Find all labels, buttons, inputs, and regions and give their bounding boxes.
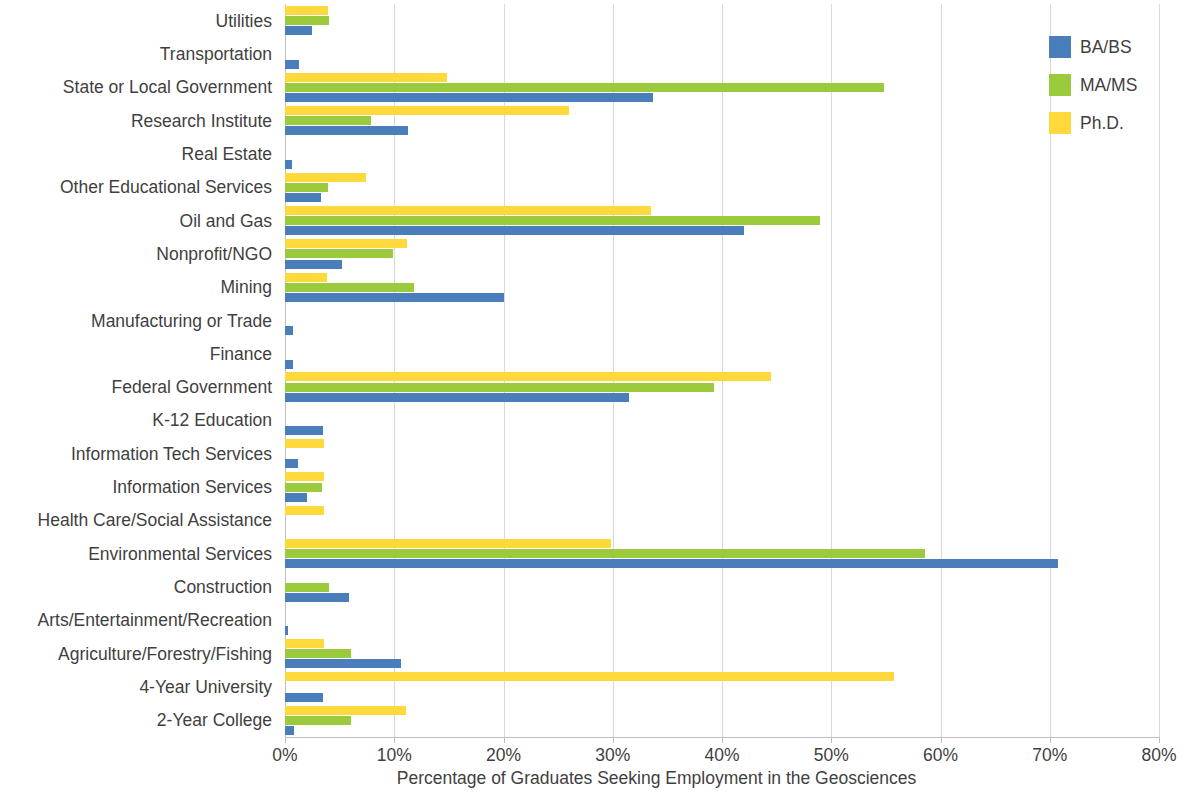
bar-track [285, 339, 1159, 348]
bar-group [285, 504, 1159, 537]
bar-group [285, 637, 1159, 670]
category-label: Mining [0, 277, 279, 297]
bar-track [285, 316, 1159, 325]
bar-track [285, 526, 1159, 535]
bar-ph-d- [285, 639, 324, 648]
legend: BA/BSMA/MSPh.D. [1049, 28, 1179, 142]
bar-ba-bs [285, 193, 321, 202]
legend-item: BA/BS [1049, 28, 1179, 66]
x-tick-mark [1050, 737, 1051, 743]
bar-ba-bs [285, 226, 744, 235]
x-tick-label: 10% [377, 745, 412, 765]
bar-ba-bs [285, 559, 1058, 568]
category-label: Research Institute [0, 111, 279, 131]
category-label: Real Estate [0, 144, 279, 164]
bar-ph-d- [285, 706, 406, 715]
bar-group [285, 237, 1159, 270]
bar-group [285, 337, 1159, 370]
legend-label: BA/BS [1080, 37, 1132, 58]
bar-ma-ms [285, 383, 714, 392]
bar-track [285, 16, 1159, 25]
bar-group [285, 4, 1159, 37]
legend-label: Ph.D. [1080, 113, 1124, 134]
bar-track [285, 73, 1159, 82]
category-label: Oil and Gas [0, 211, 279, 231]
bar-ph-d- [285, 239, 407, 248]
bar-track [285, 506, 1159, 515]
bar-ba-bs [285, 426, 323, 435]
bar-ba-bs [285, 93, 653, 102]
bar-ba-bs [285, 293, 504, 302]
bar-track [285, 639, 1159, 648]
legend-item: Ph.D. [1049, 104, 1179, 142]
bar-ph-d- [285, 173, 366, 182]
bar-ba-bs [285, 26, 312, 35]
bar-ba-bs [285, 459, 298, 468]
bar-ma-ms [285, 116, 371, 125]
category-label: 2-Year College [0, 710, 279, 730]
bar-track [285, 149, 1159, 158]
bar-group [285, 37, 1159, 70]
legend-swatch-icon [1049, 74, 1071, 96]
bar-ma-ms [285, 483, 322, 492]
bar-track [285, 716, 1159, 725]
bar-track [285, 260, 1159, 269]
bar-track [285, 549, 1159, 558]
bar-track [285, 672, 1159, 681]
bar-track [285, 116, 1159, 125]
bar-ba-bs [285, 593, 349, 602]
plot-area [285, 4, 1159, 737]
bar-track [285, 559, 1159, 568]
bar-track [285, 216, 1159, 225]
x-tick-mark [1159, 737, 1160, 743]
bar-track [285, 6, 1159, 15]
category-label: Utilities [0, 11, 279, 31]
legend-swatch-icon [1049, 36, 1071, 58]
bar-track [285, 706, 1159, 715]
x-tick-label: 50% [814, 745, 849, 765]
bar-track [285, 283, 1159, 292]
bar-track [285, 60, 1159, 69]
x-tick-label: 40% [704, 745, 739, 765]
bar-track [285, 416, 1159, 425]
x-tick-label: 20% [486, 745, 521, 765]
bar-track [285, 426, 1159, 435]
bar-track [285, 459, 1159, 468]
bar-ph-d- [285, 472, 324, 481]
x-tick-label: 30% [595, 745, 630, 765]
bar-track [285, 472, 1159, 481]
bar-ph-d- [285, 439, 324, 448]
bar-rows [285, 4, 1159, 737]
bar-track [285, 226, 1159, 235]
bar-group [285, 470, 1159, 503]
bar-ma-ms [285, 16, 329, 25]
bar-track [285, 649, 1159, 658]
bar-track [285, 393, 1159, 402]
bar-group [285, 271, 1159, 304]
bar-ph-d- [285, 273, 327, 282]
bar-track [285, 659, 1159, 668]
bar-ma-ms [285, 283, 414, 292]
category-label: Arts/Entertainment/Recreation [0, 610, 279, 630]
bar-ma-ms [285, 583, 329, 592]
category-label: Information Services [0, 477, 279, 497]
bar-ba-bs [285, 393, 629, 402]
bar-group [285, 171, 1159, 204]
bar-ph-d- [285, 539, 611, 548]
x-tick-mark [941, 737, 942, 743]
bar-track [285, 306, 1159, 315]
bar-ma-ms [285, 649, 351, 658]
x-tick-mark [504, 737, 505, 743]
bar-track [285, 683, 1159, 692]
bar-track [285, 693, 1159, 702]
bar-track [285, 83, 1159, 92]
bar-ba-bs [285, 659, 401, 668]
bar-track [285, 249, 1159, 258]
bar-ma-ms [285, 183, 328, 192]
category-label: Agriculture/Forestry/Fishing [0, 644, 279, 664]
bar-group [285, 71, 1159, 104]
x-tick-mark [285, 737, 286, 743]
bar-ba-bs [285, 493, 307, 502]
bar-group [285, 704, 1159, 737]
bar-track [285, 126, 1159, 135]
